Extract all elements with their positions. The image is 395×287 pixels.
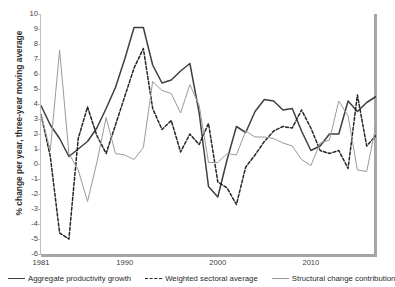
y-tick-label: -3 (4, 205, 38, 213)
y-tick-label: 3 (4, 115, 38, 123)
x-tick-label: 1990 (105, 258, 145, 267)
legend-swatch-icon (272, 278, 289, 279)
legend-label: Structural change contribution (292, 274, 395, 283)
y-tick-label: -1 (4, 175, 38, 183)
legend-label: Aggregate productivity growth (28, 274, 131, 283)
series-canvas (41, 14, 376, 254)
x-tick-label: 2000 (198, 258, 238, 267)
chart-legend: Aggregate productivity growthWeighted se… (8, 272, 378, 285)
x-tick-label: 2010 (291, 258, 331, 267)
y-tick-label: 8 (4, 40, 38, 48)
y-tick-label: -6 (4, 250, 38, 258)
y-tick-label: 4 (4, 100, 38, 108)
y-tick-label: 7 (4, 55, 38, 63)
y-tick-label: -5 (4, 235, 38, 243)
legend-label: Weighted sectoral average (165, 274, 258, 283)
legend-item[interactable]: Aggregate productivity growth (8, 274, 131, 283)
y-tick-label: 5 (4, 85, 38, 93)
series-line (41, 28, 376, 198)
y-tick-label: -4 (4, 220, 38, 228)
legend-item[interactable]: Weighted sectoral average (145, 274, 258, 283)
legend-swatch-icon (145, 278, 162, 279)
y-tick-label: 6 (4, 70, 38, 78)
y-tick-label: 1 (4, 145, 38, 153)
y-tick-label: 0 (4, 160, 38, 168)
y-axis-tick-labels: 109876543210-1-2-3-4-5-6 (0, 0, 38, 287)
y-tick-label: 10 (4, 10, 38, 18)
x-axis-line (41, 254, 377, 257)
plot-area (41, 14, 376, 254)
y-tick-label: -2 (4, 190, 38, 198)
legend-swatch-icon (8, 278, 25, 279)
legend-item[interactable]: Structural change contribution (272, 274, 395, 283)
y-tick-label: 2 (4, 130, 38, 138)
y-tick-label: 9 (4, 25, 38, 33)
series-line (41, 49, 376, 240)
x-tick-label: 1981 (21, 258, 61, 267)
